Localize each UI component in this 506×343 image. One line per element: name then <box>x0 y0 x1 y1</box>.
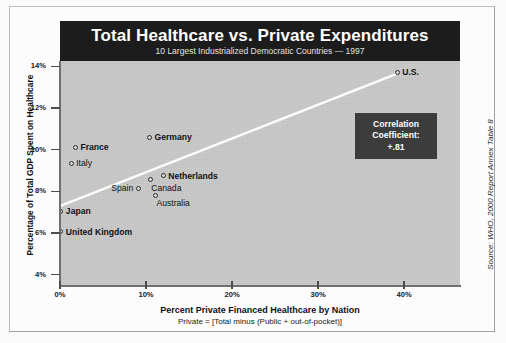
y-tick-label: 4% <box>0 271 46 279</box>
x-tick-label: 10% <box>138 291 153 299</box>
x-axis-note: Private = [Total minus (Public + out-of-… <box>60 317 460 327</box>
y-axis-line <box>59 61 61 286</box>
data-point-marker <box>153 193 158 198</box>
data-point-label: United Kingdom <box>66 227 132 237</box>
chart-title-bar: Total Healthcare vs. Private Expenditure… <box>60 21 460 61</box>
data-point-marker <box>136 186 141 191</box>
x-tick-label: 0% <box>55 291 66 299</box>
y-tick-mark <box>51 232 60 233</box>
x-axis-title: Percent Private Financed Healthcare by N… <box>60 305 460 316</box>
data-point-label: Spain <box>60 183 133 193</box>
correlation-line-2: Coefficient: <box>372 130 419 142</box>
data-point-marker <box>73 145 78 150</box>
y-tick-mark <box>51 191 60 192</box>
y-tick-mark <box>51 66 60 67</box>
y-tick-mark <box>51 107 60 108</box>
data-point-label: France <box>80 142 108 152</box>
x-tick-mark <box>231 281 232 289</box>
x-tick-label: 30% <box>310 291 325 299</box>
plot-area: U.S.GermanyFranceItalyNetherlandsCanadaS… <box>60 61 460 285</box>
data-point-marker <box>60 209 63 214</box>
data-point-marker <box>69 161 74 166</box>
y-tick-label: 14% <box>0 62 46 70</box>
y-tick-mark <box>51 149 60 150</box>
data-point-marker <box>60 229 63 234</box>
data-point-marker <box>147 135 152 140</box>
chart-title: Total Healthcare vs. Private Expenditure… <box>91 26 428 45</box>
x-tick-label: 20% <box>224 291 239 299</box>
correlation-annotation: Correlation Coefficient: +.81 <box>355 113 437 159</box>
data-point-label: Italy <box>76 158 92 168</box>
data-point-label: Netherlands <box>168 171 218 181</box>
x-tick-mark <box>317 281 318 289</box>
x-tick-mark <box>145 281 146 289</box>
y-axis-title: Percentage of Total GDP Spent on Healthc… <box>25 65 35 265</box>
y-tick-label: 8% <box>0 187 46 195</box>
x-tick-mark <box>403 281 404 289</box>
data-point-label: Germany <box>154 132 191 142</box>
source-note: Source: WHO, 2000 Report Annex Table 8 <box>486 95 495 295</box>
data-point-label: Australia <box>156 198 189 208</box>
chart-subtitle: 10 Largest Industrialized Democratic Cou… <box>156 46 365 57</box>
x-tick-label: 40% <box>396 291 411 299</box>
data-point-label: U.S. <box>402 67 419 77</box>
data-point-marker <box>148 177 153 182</box>
plot-texture <box>60 61 460 285</box>
data-point-label: Japan <box>66 206 91 216</box>
y-tick-label: 6% <box>0 229 46 237</box>
correlation-line-1: Correlation <box>373 119 419 131</box>
y-tick-label: 12% <box>0 104 46 112</box>
data-point-label: Canada <box>151 183 181 193</box>
x-tick-mark <box>59 281 60 289</box>
data-point-marker <box>395 70 400 75</box>
chart-page: Total Healthcare vs. Private Expenditure… <box>0 0 506 343</box>
correlation-value: +.81 <box>388 142 405 154</box>
x-axis-line <box>59 285 461 287</box>
y-tick-label: 10% <box>0 146 46 154</box>
data-point-marker <box>161 173 166 178</box>
y-tick-mark <box>51 274 60 275</box>
